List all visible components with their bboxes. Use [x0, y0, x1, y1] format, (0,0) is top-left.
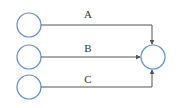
source-node-a — [17, 13, 41, 37]
edge-label-a: A — [84, 8, 92, 20]
source-node-c — [17, 75, 41, 99]
target-node — [141, 45, 165, 69]
diagram-canvas: A B C — [0, 0, 178, 108]
edge-label-b: B — [84, 42, 91, 54]
edge-label-c: C — [84, 73, 91, 85]
edge-c — [41, 70, 152, 87]
edge-a — [41, 25, 152, 44]
source-node-b — [17, 45, 41, 69]
